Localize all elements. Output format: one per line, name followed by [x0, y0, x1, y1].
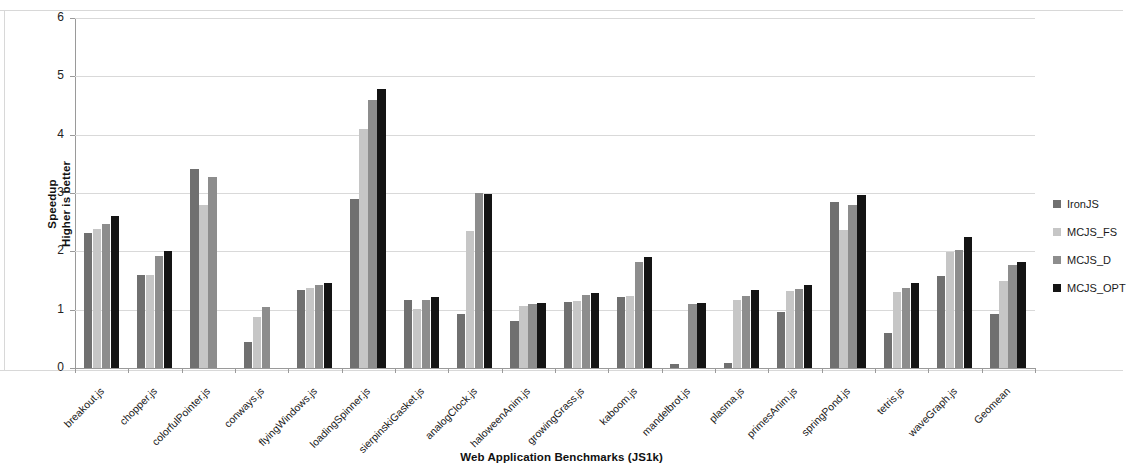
- bar-group: [937, 18, 973, 368]
- legend-swatch-icon: [1053, 284, 1061, 292]
- bar: [262, 307, 270, 368]
- x-axis-tick-mark: [662, 368, 663, 373]
- y-axis-tick-mark: [70, 135, 75, 136]
- y-axis-tick-label: 0: [38, 360, 64, 374]
- bar: [697, 303, 705, 368]
- bar-group: [564, 18, 600, 368]
- legend-item: MCJS_FS: [1053, 226, 1126, 238]
- bar: [253, 317, 261, 368]
- bar: [93, 229, 101, 368]
- bar: [582, 295, 590, 368]
- bar: [786, 291, 794, 368]
- bar: [884, 333, 892, 368]
- bar: [137, 275, 145, 368]
- bar-group: [510, 18, 546, 368]
- x-axis-tick-mark: [288, 368, 289, 373]
- x-axis-tick-mark: [502, 368, 503, 373]
- bar: [688, 304, 696, 368]
- legend-swatch-icon: [1053, 256, 1061, 264]
- bar: [795, 289, 803, 368]
- bar: [626, 296, 634, 368]
- bar: [466, 231, 474, 368]
- bar: [377, 89, 385, 368]
- bar: [937, 276, 945, 368]
- legend-item: IronJS: [1053, 198, 1126, 210]
- bar: [777, 312, 785, 368]
- bar: [902, 288, 910, 369]
- x-axis-tick-mark: [982, 368, 983, 373]
- bar: [164, 251, 172, 368]
- bar: [644, 257, 652, 368]
- bar: [475, 193, 483, 368]
- bar-group: [884, 18, 920, 368]
- x-axis-tick-mark: [448, 368, 449, 373]
- bar: [404, 300, 412, 368]
- legend-item-label: MCJS_FS: [1067, 226, 1117, 238]
- bar: [635, 262, 643, 368]
- bar: [413, 309, 421, 369]
- bar: [111, 216, 119, 368]
- bar: [431, 297, 439, 368]
- bar: [457, 314, 465, 368]
- plot-area: [75, 18, 1035, 368]
- bar: [350, 199, 358, 368]
- bar-group: [990, 18, 1026, 368]
- bar-group: [244, 18, 280, 368]
- bar-group: [457, 18, 493, 368]
- bar: [146, 275, 154, 368]
- x-axis-tick-mark: [768, 368, 769, 373]
- bar: [911, 283, 919, 368]
- bar-group: [670, 18, 706, 368]
- bar: [573, 301, 581, 368]
- bar: [617, 297, 625, 368]
- bar: [484, 194, 492, 368]
- bar: [359, 129, 367, 368]
- bar: [564, 302, 572, 368]
- bar-group: [190, 18, 226, 368]
- x-axis-tick-mark: [715, 368, 716, 373]
- x-axis-tick-mark: [822, 368, 823, 373]
- bar: [190, 169, 198, 369]
- bar: [519, 306, 527, 368]
- x-axis-tick-mark: [182, 368, 183, 373]
- bar-group: [350, 18, 386, 368]
- legend-item: MCJS_D: [1053, 254, 1126, 266]
- bar: [155, 256, 163, 368]
- legend-swatch-icon: [1053, 200, 1061, 208]
- bar: [1017, 262, 1025, 368]
- y-axis-tick-mark: [70, 193, 75, 194]
- bar-group: [617, 18, 653, 368]
- bar: [510, 321, 518, 368]
- bar-group: [137, 18, 173, 368]
- bar-group: [724, 18, 760, 368]
- chart-frame-left-border: [4, 10, 5, 370]
- bar: [990, 314, 998, 368]
- chart-frame-bottom-border: [0, 370, 1123, 371]
- bar: [964, 237, 972, 368]
- bar: [306, 288, 314, 368]
- y-axis-tick-mark: [70, 310, 75, 311]
- bar: [742, 296, 750, 368]
- bar-group: [84, 18, 120, 368]
- bar: [839, 230, 847, 368]
- bar-group: [830, 18, 866, 368]
- bar-group: [297, 18, 333, 368]
- x-axis-tick-mark: [342, 368, 343, 373]
- x-axis-tick-mark: [75, 368, 76, 373]
- x-axis-tick-mark: [128, 368, 129, 373]
- bar: [528, 304, 536, 368]
- bar: [315, 285, 323, 368]
- y-axis-tick-mark: [70, 18, 75, 19]
- legend: IronJSMCJS_FSMCJS_DMCJS_OPT: [1053, 198, 1126, 294]
- bar-group: [777, 18, 813, 368]
- y-axis-tick-label: 5: [38, 68, 64, 82]
- bar: [297, 290, 305, 368]
- x-axis-tick-mark: [928, 368, 929, 373]
- bar-group: [404, 18, 440, 368]
- y-axis-tick-label: 4: [38, 127, 64, 141]
- bar: [724, 363, 732, 368]
- bar: [422, 300, 430, 368]
- bar: [244, 342, 252, 368]
- legend-item: MCJS_OPT: [1053, 282, 1126, 294]
